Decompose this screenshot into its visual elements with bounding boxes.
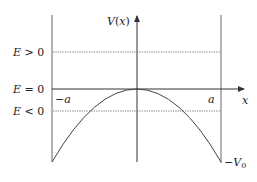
- right-marker-label: a: [208, 93, 215, 106]
- energy-negative-label: E < 0: [12, 105, 44, 118]
- potential-diagram: V(x) x E > 0 E = 0 E < 0 −a a −V0: [0, 0, 257, 182]
- left-marker-label: −a: [55, 93, 71, 106]
- x-axis-label: x: [242, 94, 249, 107]
- energy-zero-label: E = 0: [12, 83, 44, 96]
- depth-label: −V0: [224, 156, 246, 170]
- v-axis-label: V(x): [107, 15, 130, 28]
- energy-positive-label: E > 0: [12, 46, 44, 59]
